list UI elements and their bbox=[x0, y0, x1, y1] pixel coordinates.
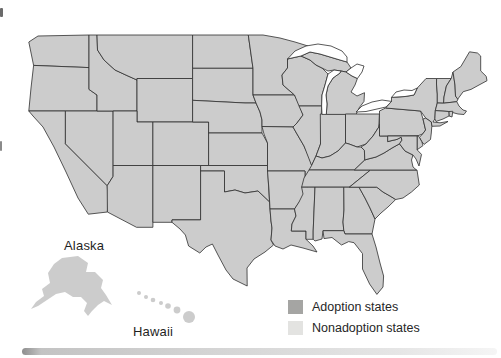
nonadoption-swatch bbox=[288, 321, 303, 335]
adoption-label: Adoption states bbox=[312, 300, 398, 314]
state-maine bbox=[453, 52, 487, 99]
legend: Adoption states Nonadoption states bbox=[288, 299, 420, 341]
state-washington bbox=[29, 35, 89, 68]
us-map bbox=[0, 0, 501, 358]
alaska-label: Alaska bbox=[64, 238, 104, 253]
hawaii-island bbox=[183, 311, 195, 323]
state-north-dakota bbox=[193, 35, 253, 68]
hawaii-island bbox=[165, 303, 171, 309]
hawaii-island bbox=[151, 298, 156, 303]
state-oregon bbox=[29, 65, 97, 111]
bottom-divider bbox=[22, 348, 497, 355]
hawaii-island bbox=[159, 301, 163, 305]
state-south-dakota bbox=[193, 68, 256, 103]
adoption-swatch bbox=[288, 300, 303, 314]
state-alaska bbox=[31, 256, 112, 316]
state-connecticut bbox=[435, 111, 449, 122]
state-new-mexico bbox=[153, 166, 201, 223]
state-arizona bbox=[107, 166, 153, 228]
nonadoption-label: Nonadoption states bbox=[312, 321, 420, 335]
state-pennsylvania bbox=[380, 108, 426, 136]
hawaii-label: Hawaii bbox=[133, 324, 173, 339]
hawaii-island bbox=[137, 291, 141, 295]
legend-row-nonadoption: Nonadoption states bbox=[288, 320, 420, 335]
state-florida bbox=[323, 231, 384, 295]
hawaii-island bbox=[174, 307, 181, 314]
page-edge-artifact bbox=[0, 8, 3, 17]
page-edge-artifact bbox=[0, 141, 2, 151]
state-hawaii bbox=[137, 291, 195, 323]
us-adoption-map-figure: Alaska Hawaii Adoption states Nonadoptio… bbox=[0, 0, 501, 358]
state-colorado bbox=[153, 122, 209, 166]
state-kansas bbox=[209, 133, 268, 166]
legend-row-adoption: Adoption states bbox=[288, 299, 420, 314]
state-wyoming bbox=[137, 79, 193, 123]
state-rhode-island bbox=[449, 111, 453, 117]
hawaii-island bbox=[144, 295, 148, 299]
